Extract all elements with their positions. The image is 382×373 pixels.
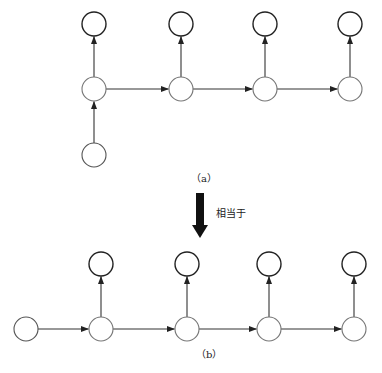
node-output-y2	[175, 252, 199, 276]
equivalence-label: 相当于	[216, 205, 246, 220]
rnn-equivalence-diagram	[0, 0, 382, 373]
node-output-y1	[82, 12, 106, 36]
node-hidden-h4	[338, 77, 362, 101]
node-output-y3	[257, 252, 281, 276]
node-output-y1	[89, 252, 113, 276]
node-input-x	[14, 317, 38, 341]
node-hidden-h1	[89, 317, 113, 341]
node-output-y2	[169, 12, 193, 36]
diagram-b-sequence-chain	[14, 252, 366, 341]
node-hidden-h2	[175, 317, 199, 341]
diagram-a-one-to-many	[82, 12, 362, 167]
node-hidden-h2	[169, 77, 193, 101]
equivalence-arrow-icon	[192, 193, 208, 238]
caption-a: （a）	[191, 170, 217, 185]
node-hidden-h3	[253, 77, 277, 101]
node-hidden-h4	[342, 317, 366, 341]
node-output-y3	[253, 12, 277, 36]
caption-b: （b）	[196, 346, 222, 361]
node-output-y4	[342, 252, 366, 276]
node-hidden-h3	[257, 317, 281, 341]
node-input-x	[82, 143, 106, 167]
node-hidden-h1	[82, 77, 106, 101]
node-output-y4	[338, 12, 362, 36]
